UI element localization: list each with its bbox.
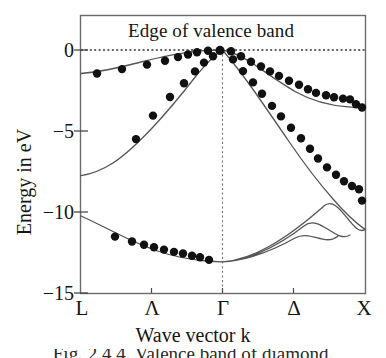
band-structure-figure: Edge of valence band 0 −5 −10 −15 L Λ Γ … [0, 0, 386, 358]
data-point [111, 232, 119, 240]
data-point [140, 241, 148, 249]
data-point [215, 46, 224, 55]
data-point [196, 253, 204, 261]
data-point [358, 196, 366, 204]
data-point [179, 249, 187, 257]
data-point [132, 135, 140, 143]
data-point [268, 102, 276, 110]
data-point [161, 57, 169, 65]
data-point [285, 77, 293, 85]
data-point [150, 243, 158, 251]
data-point [312, 89, 320, 97]
y-tick-label-minus-10: −10 [33, 202, 74, 222]
data-point [143, 60, 151, 68]
data-point [118, 65, 126, 73]
x-tick-label-lambda: Λ [132, 298, 172, 319]
plot-frame [81, 16, 366, 294]
data-point [229, 55, 237, 63]
data-point [149, 111, 157, 119]
x-tick-label-gamma: Γ [203, 298, 243, 319]
data-point [322, 91, 330, 99]
data-point [184, 50, 192, 58]
data-point [323, 163, 331, 171]
data-point [275, 72, 283, 80]
data-point [180, 79, 188, 87]
data-point [332, 171, 340, 179]
data-point [170, 248, 178, 256]
data-point [239, 67, 247, 75]
y-tick-label-0: 0 [48, 40, 74, 60]
figure-caption-text: Fig. 2.4.4. Valence band of diamond. [0, 349, 386, 358]
data-point [237, 52, 245, 60]
data-point [355, 185, 363, 193]
data-point [93, 69, 101, 77]
x-tick-label-X: X [344, 298, 384, 319]
data-point [330, 93, 338, 101]
data-point [128, 237, 136, 245]
data-point [287, 124, 295, 132]
data-point [277, 112, 285, 120]
data-point [358, 103, 366, 111]
x-tick-label-L: L [62, 298, 102, 319]
data-point [340, 177, 348, 185]
data-point [166, 93, 174, 101]
data-point [297, 134, 305, 142]
data-point [188, 252, 196, 260]
data-point [200, 58, 208, 66]
data-point [257, 62, 265, 70]
data-point [160, 245, 168, 253]
y-tick-label-minus-5: −5 [40, 121, 74, 141]
x-axis-title: Wave vector k [0, 325, 386, 345]
data-point [191, 67, 199, 75]
data-point [227, 47, 235, 55]
data-point [205, 256, 213, 264]
data-point [295, 81, 303, 89]
data-point [249, 78, 257, 86]
x-tick-label-delta: Δ [274, 298, 314, 319]
data-point [209, 52, 217, 60]
data-point [174, 53, 182, 61]
data-point [193, 48, 201, 56]
data-point [304, 85, 312, 93]
data-point [306, 145, 314, 153]
data-point [258, 90, 266, 98]
y-axis-title: Energy in eV [14, 102, 34, 262]
data-point [247, 58, 255, 66]
figure-caption-clipped: Fig. 2.4.4. Valence band of diamond. [0, 349, 386, 358]
data-point [314, 154, 322, 162]
plot-title: Edge of valence band [128, 21, 294, 40]
data-point [266, 67, 274, 75]
